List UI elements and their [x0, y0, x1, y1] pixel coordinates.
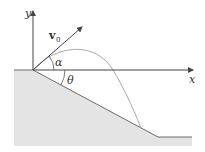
velocity-subscript: 0	[56, 36, 60, 44]
theta-label: θ	[67, 74, 74, 87]
projectile-incline-diagram: y x v 0 α θ	[0, 0, 205, 152]
alpha-arc	[49, 56, 54, 70]
theta-arc	[61, 70, 65, 85]
alpha-label: α	[55, 56, 63, 69]
y-axis-label: y	[24, 7, 32, 20]
velocity-label: v	[48, 29, 56, 42]
x-axis-label: x	[189, 73, 196, 86]
